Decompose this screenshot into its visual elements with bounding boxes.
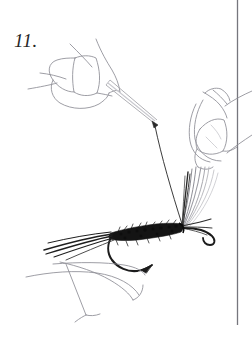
bodkin-needle (106, 80, 158, 128)
step-number-label: 11. (14, 30, 38, 52)
right-hand-outline (189, 88, 252, 169)
dubbed-fly-body (109, 220, 184, 246)
tail-fibers (44, 232, 114, 260)
hackle-wing-fibers (182, 167, 218, 235)
illustration-page: 11. (0, 0, 252, 339)
tying-thread (155, 126, 182, 224)
left-hand-outline (28, 39, 120, 108)
